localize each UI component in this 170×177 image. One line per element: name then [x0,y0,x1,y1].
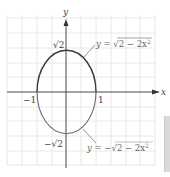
y-axis-arrow-icon [64,19,69,26]
lower-half-curve [37,92,96,134]
x-axis-label: x [161,87,166,97]
tick-label-sqrt2: √2 [53,40,64,50]
tick-label-neg-one: −1 [23,95,36,105]
side-scroll-bar [164,116,170,172]
svg-text:y = −√2 − 2x2: y = −√2 − 2x2 [86,142,149,153]
ellipse-graph: y x −1 1 √2 −√2 y = √2 − 2x2 y = −√2 − 2… [0,0,170,177]
upper-half-curve [37,50,96,92]
y-axis-label: y [62,7,69,17]
tick-label-neg-sqrt2: −√2 [44,139,63,149]
tick-label-pos-one: 1 [98,95,104,105]
x-axis-arrow-icon [152,90,160,95]
svg-text:y = √2 − 2x2: y = √2 − 2x2 [95,38,151,49]
upper-equation-label: y = √2 − 2x2 [95,38,152,49]
upper-leader-line [84,45,95,57]
lower-equation-label: y = −√2 − 2x2 [86,142,153,153]
